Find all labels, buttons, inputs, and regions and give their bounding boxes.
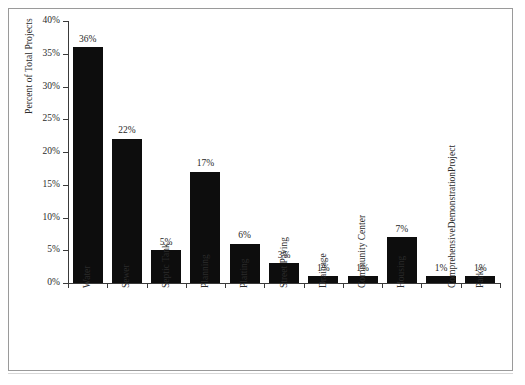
category-label: ComprehensiveDemonstrationProject	[447, 145, 458, 288]
chart-figure: Percent of Total Projects 0%5%10%15%20%2…	[0, 0, 525, 385]
x-axis-tick	[107, 283, 108, 288]
category-label-line: Community Center	[357, 215, 368, 288]
bar-value-label: 36%	[79, 35, 96, 45]
category-label: Housing	[396, 256, 407, 288]
category-label-line: Platting	[239, 258, 250, 288]
bar-value-label: 6%	[238, 231, 251, 241]
x-axis-tick	[147, 283, 148, 288]
bar-value-label: 1%	[435, 264, 448, 274]
bar-value-label: 7%	[395, 225, 408, 235]
category-label-line: Sewer	[121, 264, 132, 288]
x-axis-tick	[264, 283, 265, 288]
category-label-line: Housing	[396, 256, 407, 288]
category-label: Platting	[239, 258, 250, 288]
category-label-line: Water	[82, 266, 93, 288]
bar-slot: 1%	[304, 21, 343, 283]
bar-slot: 6%	[225, 21, 264, 283]
y-axis-tick-label: 40%	[43, 16, 60, 26]
plot-area: 0%5%10%15%20%25%30%35%40% 36%22%5%17%6%3…	[68, 21, 500, 283]
category-label-line: Parks	[475, 267, 486, 288]
x-axis-tick	[225, 283, 226, 288]
x-axis-tick	[68, 283, 69, 288]
x-axis-tick	[304, 283, 305, 288]
category-label-line: Planning	[200, 254, 211, 288]
category-label: Drainage	[318, 253, 329, 288]
y-axis-title: Percent of Total Projects	[24, 100, 34, 114]
y-axis-tick-label: 30%	[43, 82, 60, 92]
category-label: Water	[82, 266, 93, 288]
category-label: Sewer	[121, 264, 132, 288]
category-label-line: Demonstration	[447, 172, 458, 228]
y-axis-tick-label: 35%	[43, 49, 60, 59]
x-axis-tick	[500, 283, 501, 288]
y-axis-tick-label: 25%	[43, 115, 60, 125]
bar-value-label: 17%	[197, 159, 214, 169]
category-label: Planning	[200, 254, 211, 288]
bar-slot: 22%	[107, 21, 146, 283]
bar-water: 36%	[73, 47, 103, 283]
bar-value-label: 22%	[118, 126, 135, 136]
y-axis-tick-label: 0%	[47, 278, 60, 288]
category-label: Parks	[475, 267, 486, 288]
y-axis-tick-label: 20%	[43, 147, 60, 157]
y-axis-tick-label: 15%	[43, 180, 60, 190]
category-label-line: Comprehensive	[447, 228, 458, 288]
category-label: Septic Tank	[161, 243, 172, 288]
y-axis-tick-label: 5%	[47, 246, 60, 256]
x-axis-tick	[461, 283, 462, 288]
x-axis-tick	[186, 283, 187, 288]
category-label-line: Project	[447, 145, 458, 172]
bar-slot: 36%	[68, 21, 107, 283]
category-label-line: Septic Tank	[161, 243, 172, 288]
category-label-line: Street Paving	[279, 237, 290, 288]
bar-slot: 17%	[186, 21, 225, 283]
y-axis-tick-label: 10%	[43, 213, 60, 223]
bar-slot: 7%	[382, 21, 421, 283]
category-label: Community Center	[357, 215, 368, 288]
x-axis-tick	[382, 283, 383, 288]
category-label: Street Paving	[279, 237, 290, 288]
category-label-line: Drainage	[318, 253, 329, 288]
x-axis-tick	[343, 283, 344, 288]
x-axis-tick	[421, 283, 422, 288]
bar-sewer: 22%	[112, 139, 142, 283]
bar-slot: 1%	[461, 21, 500, 283]
